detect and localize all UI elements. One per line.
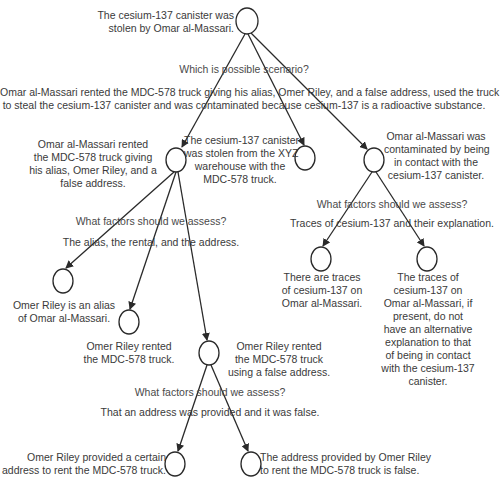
- theft-node-line: The cesium-137 canister: [184, 134, 296, 147]
- provided-node-line: address to rent the MDC-578 truck.: [2, 464, 166, 477]
- no-alt-node-line: explanation to that: [380, 336, 476, 349]
- no-alt-node-line: canister.: [380, 375, 476, 388]
- rental-node-line: false address.: [20, 177, 166, 190]
- alias-node-label: Omer Riley is an alias of Omar al-Massar…: [4, 299, 124, 325]
- rental-node-line: his alias, Omer Riley, and a: [20, 164, 166, 177]
- traces-node-line: of cesium-137 on: [280, 284, 364, 297]
- node-rental-circle: [166, 148, 186, 172]
- node-traces-circle: [311, 247, 331, 271]
- rental-question: What factors should we assess?: [40, 215, 262, 228]
- contamination-node-line: in contact with the: [384, 156, 488, 169]
- is-false-node-line: The address provided by Omer Riley: [260, 451, 414, 464]
- root-answer-line: Omar al-Massari rented the MDC-578 truck…: [0, 86, 488, 99]
- root-claim-label: The cesium-137 canister was stolen by Om…: [97, 9, 234, 35]
- rented-node-line: Omer Riley rented: [80, 340, 178, 353]
- node-root-circle: [236, 8, 258, 34]
- root-claim-line: stolen by Omar al-Massari.: [97, 22, 234, 35]
- alias-node-line: Omer Riley is an alias: [4, 299, 124, 312]
- false-address-node-label: Omer Riley rented the MDC-578 truck usin…: [220, 340, 338, 379]
- traces-node-line: Omar al-Massari.: [280, 297, 364, 310]
- node-alias-circle: [53, 269, 73, 293]
- node-provided-circle: [165, 452, 185, 476]
- rental-node-line: the MDC-578 truck giving: [20, 151, 166, 164]
- no-alt-node-line: The traces of: [380, 271, 476, 284]
- is-false-node-line: to rent the MDC-578 truck is false.: [260, 464, 414, 477]
- root-answer-line: to steal the cesium-137 canister and was…: [0, 99, 488, 112]
- node-is-false-circle: [241, 452, 261, 476]
- address-question: What factors should we assess?: [110, 386, 310, 399]
- false-address-node-line: using a false address.: [220, 366, 338, 379]
- provided-node-line: Omer Riley provided a certain: [2, 451, 166, 464]
- traces-node-label: There are traces of cesium-137 on Omar a…: [280, 271, 364, 310]
- rental-node-label: Omar al-Massari rented the MDC-578 truck…: [20, 138, 166, 190]
- node-theft-circle: [295, 146, 315, 170]
- root-claim-line: The cesium-137 canister was: [97, 9, 234, 22]
- node-no-alt-circle: [417, 247, 437, 271]
- no-alt-node-line: of being in contact: [380, 349, 476, 362]
- false-address-node-line: the MDC-578 truck: [220, 353, 338, 366]
- rental-answer: The alias, the rental, and the address.: [40, 236, 262, 249]
- rented-node-label: Omer Riley rented the MDC-578 truck.: [80, 340, 178, 366]
- alias-node-line: of Omar al-Massari.: [4, 312, 124, 325]
- no-alt-node-label: The traces of cesium-137 on Omar al-Mass…: [380, 271, 476, 388]
- no-alt-node-line: present, do not: [380, 310, 476, 323]
- traces-node-line: There are traces: [280, 271, 364, 284]
- address-answer: That an address was provided and it was …: [100, 406, 320, 419]
- node-contamination-circle: [364, 148, 384, 172]
- no-alt-node-line: Omar al-Massari, if: [380, 297, 476, 310]
- root-answer: Omar al-Massari rented the MDC-578 truck…: [0, 86, 488, 112]
- rental-node-line: Omar al-Massari rented: [20, 138, 166, 151]
- contamination-node-line: Omar al-Massari was: [384, 130, 488, 143]
- theft-node-line: was stolen from the XYZ: [184, 147, 296, 160]
- provided-node-label: Omer Riley provided a certain address to…: [2, 451, 166, 477]
- root-question: Which is possible scenario?: [0, 63, 488, 76]
- no-alt-node-line: cesium-137 on: [380, 284, 476, 297]
- contamination-question: What factors should we assess?: [300, 198, 484, 211]
- rented-node-line: the MDC-578 truck.: [80, 353, 178, 366]
- no-alt-node-line: have an alternative: [380, 323, 476, 336]
- theft-node-line: warehouse with the: [184, 160, 296, 173]
- contamination-node-line: cesium-137 canister.: [384, 169, 488, 182]
- false-address-node-line: Omer Riley rented: [220, 340, 338, 353]
- contamination-node-label: Omar al-Massari was contaminated by bein…: [384, 130, 488, 182]
- theft-node-label: The cesium-137 canister was stolen from …: [184, 134, 296, 186]
- contamination-answer: Traces of cesium-137 and their explanati…: [280, 217, 504, 230]
- no-alt-node-line: with the cesium-137: [380, 362, 476, 375]
- theft-node-line: MDC-578 truck.: [184, 173, 296, 186]
- node-false-address-circle: [199, 341, 219, 365]
- is-false-node-label: The address provided by Omer Riley to re…: [260, 451, 414, 477]
- contamination-node-line: contaminated by being: [384, 143, 488, 156]
